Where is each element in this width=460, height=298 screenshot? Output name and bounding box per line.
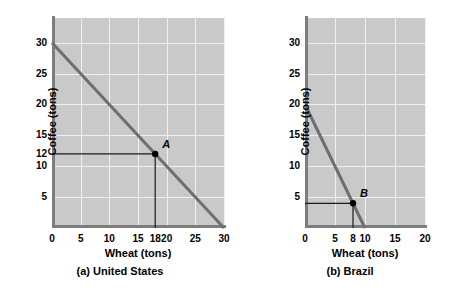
gridline-vertical [224, 18, 225, 228]
plot-area-brazil: 51015202530 058101520 Coffee (tons) Whea… [305, 18, 425, 228]
panel-caption-brazil: (b) Brazil [240, 266, 460, 277]
y-tick-label: 10 [36, 161, 47, 171]
y-tick-label: 25 [36, 69, 47, 79]
ppf-curve [52, 43, 224, 228]
y-tick-label: 5 [41, 192, 47, 202]
x-tick-label: 5 [332, 234, 338, 244]
x-tick-label: 18 [150, 234, 161, 244]
data-point-marker [350, 200, 356, 206]
panel-united-states: 5101215202530 05101518202530 Coffee (ton… [0, 0, 240, 298]
x-tick-label: 5 [78, 234, 84, 244]
panel-brazil: 51015202530 058101520 Coffee (tons) Whea… [240, 0, 460, 298]
gridline-vertical [425, 18, 426, 228]
y-axis-title-br: Coffee (tons) [300, 80, 311, 164]
panel-caption-united-states: (a) United States [0, 266, 240, 277]
y-tick-label: 10 [289, 161, 300, 171]
x-tick-label: 25 [190, 234, 201, 244]
x-axis-title-br: Wheat (tons) [305, 248, 425, 259]
y-tick-label: 5 [294, 192, 300, 202]
point-label-b: B [360, 188, 368, 199]
x-tick-label: 0 [302, 234, 308, 244]
plot-area-united-states: 5101215202530 05101518202530 Coffee (ton… [52, 18, 224, 228]
data-point-marker [152, 151, 158, 157]
y-tick-label: 30 [289, 38, 300, 48]
y-axis-title-us: Coffee (tons) [47, 80, 58, 164]
figure-ppf-comparison: 5101215202530 05101518202530 Coffee (ton… [0, 0, 460, 298]
y-tick-label: 30 [36, 38, 47, 48]
ppf-curve [305, 104, 365, 228]
x-tick-label: 15 [389, 234, 400, 244]
x-tick-label: 10 [359, 234, 370, 244]
x-tick-label: 20 [161, 234, 172, 244]
x-tick-label: 0 [49, 234, 55, 244]
x-tick-label: 10 [104, 234, 115, 244]
x-tick-label: 15 [132, 234, 143, 244]
x-tick-label: 20 [419, 234, 430, 244]
x-tick-label: 30 [218, 234, 229, 244]
x-axis-title-us: Wheat (tons) [52, 248, 224, 259]
point-label-a: A [162, 139, 170, 150]
y-tick-label: 25 [289, 69, 300, 79]
x-tick-label: 8 [350, 234, 356, 244]
ppf-line-us [52, 18, 224, 228]
